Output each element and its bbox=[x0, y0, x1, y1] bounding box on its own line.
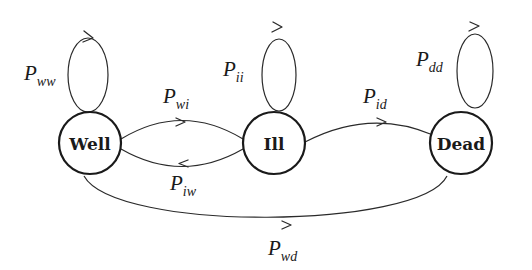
edge-ii: Pii bbox=[222, 22, 296, 111]
edge-ww: Pww bbox=[23, 31, 108, 112]
self-loop-ill bbox=[262, 39, 296, 111]
edge-iw: Piw bbox=[121, 149, 243, 199]
edge-label-ww: Pww bbox=[23, 61, 56, 89]
edge-label-wi: Pwi bbox=[162, 84, 189, 112]
arc-well-to-dead bbox=[84, 176, 447, 217]
arrowhead-icon bbox=[272, 22, 282, 32]
arrowhead-icon bbox=[83, 31, 93, 42]
edge-dd: Pdd bbox=[415, 22, 493, 108]
arrowhead-icon bbox=[469, 22, 479, 31]
state-label-dead: Dead bbox=[437, 134, 486, 154]
node-ill: Ill bbox=[243, 112, 305, 174]
edge-label-ii: Pii bbox=[222, 57, 244, 85]
edge-label-iw: Piw bbox=[169, 171, 197, 199]
node-well: Well bbox=[59, 112, 121, 174]
self-loop-well bbox=[68, 38, 108, 112]
arc-ill-to-dead bbox=[305, 123, 433, 142]
node-dead: Dead bbox=[430, 112, 492, 174]
arc-ill-to-well bbox=[121, 149, 243, 167]
arrowhead-icon bbox=[176, 118, 185, 126]
edge-label-wd: Pwd bbox=[267, 236, 298, 264]
edge-id: Pid bbox=[305, 84, 433, 142]
markov-state-diagram: Pww Pii Pdd Pwi Piw bbox=[0, 0, 532, 270]
arrowhead-icon bbox=[377, 118, 386, 126]
edge-wi: Pwi bbox=[121, 84, 243, 139]
arrowhead-icon bbox=[282, 221, 291, 229]
self-loop-dead bbox=[457, 34, 493, 108]
edge-label-dd: Pdd bbox=[415, 47, 444, 75]
state-label-ill: Ill bbox=[264, 134, 285, 154]
edge-wd: Pwd bbox=[84, 176, 447, 264]
edge-label-id: Pid bbox=[362, 84, 388, 112]
state-label-well: Well bbox=[68, 134, 111, 154]
